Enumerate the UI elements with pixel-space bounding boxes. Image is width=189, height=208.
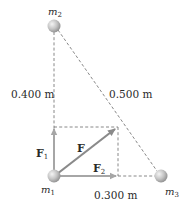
label-m1: m1 bbox=[41, 184, 55, 197]
f-resultant-arrow bbox=[57, 129, 115, 174]
mass-m3-sphere bbox=[155, 170, 168, 183]
label-f1: F1 bbox=[36, 147, 48, 161]
dashed-line-m2-m3 bbox=[58, 30, 157, 171]
distance-m1-m3: 0.300 m bbox=[94, 189, 137, 201]
mass-m2-sphere bbox=[48, 20, 61, 33]
force-diagram: m2 m1 m3 0.400 m 0.500 m 0.300 m F1 F F2 bbox=[0, 0, 189, 208]
distance-m2-m3: 0.500 m bbox=[109, 88, 152, 100]
label-f2: F2 bbox=[93, 162, 105, 176]
label-m2: m2 bbox=[48, 6, 62, 19]
label-m3: m3 bbox=[165, 186, 179, 199]
mass-m1-sphere bbox=[48, 170, 61, 183]
dashed-guides bbox=[54, 30, 157, 176]
label-f: F bbox=[77, 142, 85, 155]
distance-m1-m2: 0.400 m bbox=[11, 88, 54, 100]
